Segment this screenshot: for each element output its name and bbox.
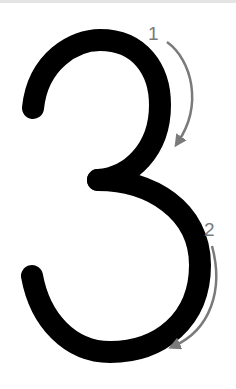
upper-curve-stroke: [33, 40, 160, 180]
digit-three-strokes: [32, 40, 200, 352]
step-1-label: 1: [148, 24, 159, 43]
digit-three-figure: [0, 0, 236, 389]
lower-curve-stroke: [32, 180, 200, 352]
arrow-1-icon: [167, 42, 192, 142]
step-2-label: 2: [204, 220, 215, 239]
